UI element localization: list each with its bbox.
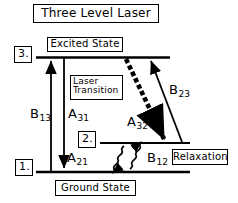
transition-label-B13: B13 [30, 106, 50, 121]
level-label-ground-state: Ground State [55, 180, 136, 196]
transition-label-A31: A31 [68, 106, 88, 121]
transition-label-B12-base: B [147, 150, 156, 165]
transition-label-B23: B23 [169, 82, 189, 97]
transition-label-B12-sub: 12 [156, 157, 167, 167]
laser-transition-label: Laser Transition [70, 75, 123, 100]
level-number-2: 2. [78, 131, 96, 148]
transition-label-B12: B12 [147, 150, 167, 165]
transition-label-A32: A32 [127, 114, 147, 129]
laser-transition-line-2: Transition [73, 86, 122, 95]
level-number-1: 1. [15, 159, 33, 176]
diagram-canvas: Three Level Laser 3. 2. 1. Excited State… [0, 0, 238, 203]
transition-label-A31-base: A [68, 106, 77, 121]
transition-label-A21: A21 [67, 150, 87, 165]
transition-label-A21-sub: 21 [76, 157, 87, 167]
diagram-title: Three Level Laser [33, 4, 159, 23]
transition-label-B23-base: B [169, 82, 178, 97]
transition-label-B23-sub: 23 [178, 89, 189, 99]
transition-arrow-B23 [151, 61, 182, 142]
transition-arrow-A21 [112, 146, 124, 173]
transition-label-A32-sub: 32 [136, 121, 147, 131]
level-label-excited-state: Excited State [47, 37, 123, 52]
transition-label-A21-base: A [67, 150, 76, 165]
transition-label-B13-base: B [30, 106, 39, 121]
transition-arrow-B12 [130, 142, 142, 169]
relaxation-label: Relaxation [172, 149, 228, 165]
diagram-vector-layer [0, 0, 238, 203]
transition-label-A31-sub: 31 [77, 113, 88, 123]
level-number-3: 3. [14, 46, 32, 63]
transition-label-A32-base: A [127, 114, 136, 129]
transition-label-B13-sub: 13 [39, 113, 50, 123]
